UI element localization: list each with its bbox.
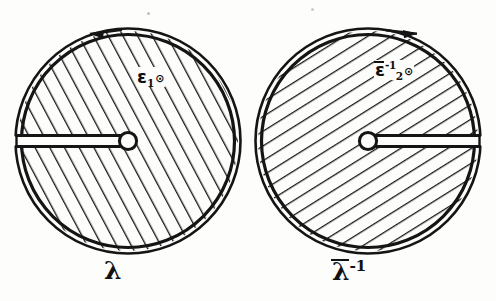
disc-left-slit <box>14 134 126 148</box>
disc-left-interior-label: ε1⊙ <box>136 68 166 89</box>
caption-overbar <box>331 259 349 261</box>
circled-dot-icon-right: ⊙ <box>404 65 413 78</box>
figure-canvas <box>0 0 496 301</box>
epsilon-overbar-group-right: ε <box>375 61 385 79</box>
disc-left <box>14 29 241 254</box>
caption-superscript-right: -1 <box>350 256 366 275</box>
scan-speck <box>311 8 314 11</box>
epsilon-subscript-right: 2 <box>396 70 403 82</box>
epsilon-glyph-left: ε <box>137 66 147 87</box>
circled-dot-icon-left: ⊙ <box>155 72 164 85</box>
scan-speck <box>147 12 150 15</box>
epsilon-subscript-left: 1 <box>147 77 154 89</box>
disc-right <box>256 29 483 254</box>
disc-left-hub <box>119 132 136 149</box>
disc-right-slit <box>370 134 482 148</box>
caption-lambda-glyph: λ <box>104 256 122 285</box>
disc-right-interior-label: ε-12⊙ <box>374 60 414 82</box>
figure-root: ε1⊙ ε-12⊙ λ λ-1 <box>0 0 496 301</box>
overbar-right <box>374 61 384 63</box>
caption-overbar-group: λ <box>332 259 350 284</box>
disc-right-hub <box>359 132 376 149</box>
caption-lambda-bar-inverse: λ-1 <box>332 258 366 284</box>
epsilon-superscript-right: -1 <box>385 59 396 71</box>
caption-lambda-glyph-right: λ <box>332 257 350 286</box>
caption-lambda: λ <box>104 258 122 283</box>
